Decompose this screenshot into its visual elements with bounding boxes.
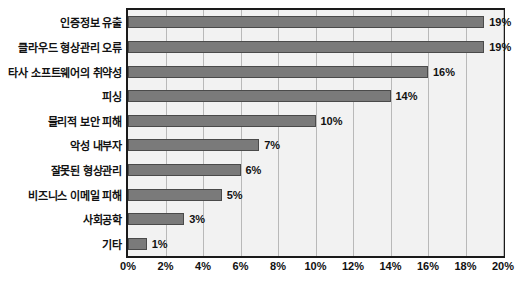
x-tick-label: 18% — [454, 260, 476, 272]
category-label: 악성 내부자 — [0, 137, 122, 153]
category-label: 사회공학 — [0, 211, 122, 227]
x-tick-label: 10% — [304, 260, 326, 272]
x-tick-label: 12% — [342, 260, 364, 272]
x-tick-label: 2% — [158, 260, 174, 272]
x-tick-label: 0% — [120, 260, 136, 272]
bars-layer: 19%19%16%14%10%7%6%5%3%1% — [128, 10, 503, 256]
bar — [128, 41, 484, 53]
bar-value-label: 6% — [246, 164, 262, 176]
bar-value-label: 3% — [189, 213, 205, 225]
bar — [128, 115, 316, 127]
bar-value-label: 19% — [489, 16, 511, 28]
category-label: 잘못된 형상관리 — [0, 162, 122, 178]
x-tick-label: 8% — [270, 260, 286, 272]
category-label: 타사 소프트웨어의 취약성 — [0, 64, 122, 80]
bar — [128, 238, 147, 250]
bar — [128, 189, 222, 201]
bar — [128, 139, 259, 151]
bar-value-label: 10% — [321, 115, 343, 127]
bar — [128, 164, 241, 176]
bar-value-label: 16% — [433, 66, 455, 78]
category-label: 클라우드 형상관리 오류 — [0, 39, 122, 55]
category-label: 피싱 — [0, 88, 122, 104]
bar — [128, 66, 428, 78]
x-tick-label: 6% — [233, 260, 249, 272]
x-tick-label: 20% — [492, 260, 514, 272]
bar-value-label: 7% — [264, 139, 280, 151]
category-label: 물리적 보안 피해 — [0, 113, 122, 129]
bar-value-label: 14% — [396, 90, 418, 102]
category-axis: 인증정보 유출클라우드 형상관리 오류타사 소프트웨어의 취약성피싱물리적 보안… — [0, 8, 122, 258]
bar — [128, 90, 391, 102]
plot-area: 19%19%16%14%10%7%6%5%3%1% — [126, 8, 505, 258]
bar — [128, 213, 184, 225]
category-label: 기타 — [0, 236, 122, 252]
x-tick-label: 16% — [417, 260, 439, 272]
x-axis: 0%2%4%6%8%10%12%14%16%18%20% — [126, 260, 505, 280]
bar-chart: 인증정보 유출클라우드 형상관리 오류타사 소프트웨어의 취약성피싱물리적 보안… — [0, 0, 521, 288]
bar-value-label: 19% — [489, 41, 511, 53]
bar — [128, 16, 484, 28]
bar-value-label: 1% — [152, 238, 168, 250]
category-label: 비즈니스 이메일 피해 — [0, 187, 122, 203]
category-label: 인증정보 유출 — [0, 14, 122, 30]
bar-value-label: 5% — [227, 189, 243, 201]
x-tick-label: 14% — [379, 260, 401, 272]
x-tick-label: 4% — [195, 260, 211, 272]
